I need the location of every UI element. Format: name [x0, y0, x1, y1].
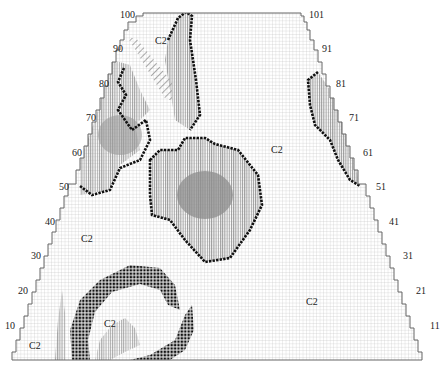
row-label-left: 50	[59, 182, 69, 192]
color-label: C2	[306, 297, 318, 307]
row-label-left: 80	[99, 79, 109, 89]
row-label-left: 40	[45, 217, 55, 227]
color-label: C2	[104, 319, 116, 329]
row-label-left: 20	[18, 286, 28, 296]
row-label-right: 101	[309, 10, 324, 20]
row-label-left: 10	[5, 321, 15, 331]
row-label-right: 11	[430, 321, 440, 331]
color-label: C2	[155, 36, 167, 46]
row-label-right: 71	[349, 113, 359, 123]
row-label-left: 70	[86, 113, 96, 123]
row-label-left: 90	[113, 44, 123, 54]
row-label-right: 91	[322, 44, 332, 54]
row-label-right: 51	[376, 182, 386, 192]
row-label-left: 60	[72, 148, 82, 158]
row-label-right: 41	[389, 217, 399, 227]
row-label-right: 21	[416, 286, 426, 296]
row-label-left: 30	[31, 251, 41, 261]
row-label-right: 31	[403, 251, 413, 261]
color-label: C2	[29, 341, 41, 351]
color-label: C2	[271, 145, 283, 155]
row-label-right: 61	[363, 148, 373, 158]
color-label: C2	[81, 234, 93, 244]
row-label-left: 100	[120, 10, 135, 20]
row-label-right: 81	[336, 79, 346, 89]
